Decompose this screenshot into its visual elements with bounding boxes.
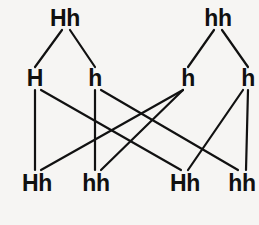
genotype-label-g1: H [27,67,43,90]
pedigree-edge [222,30,248,67]
genotype-label-p2: hh [204,7,232,30]
genotype-label-g3: h [181,67,195,90]
genotype-label-g2: h [88,67,102,90]
pedigree-edge [70,30,95,67]
pedigree-edge [246,90,248,170]
genotype-label-o3: Hh [170,172,200,195]
pedigree-edge [188,30,214,67]
genotype-label-o2: hh [82,172,110,195]
genotype-label-g4: h [241,67,255,90]
edge-group [35,30,248,170]
genotype-label-o1: Hh [22,172,52,195]
genetics-cross-diagram: HhhhHhhhHhhhHhhh [0,0,259,225]
pedigree-edge [35,30,62,67]
genotype-label-o4: hh [228,172,256,195]
genotype-label-p1: Hh [50,7,80,30]
